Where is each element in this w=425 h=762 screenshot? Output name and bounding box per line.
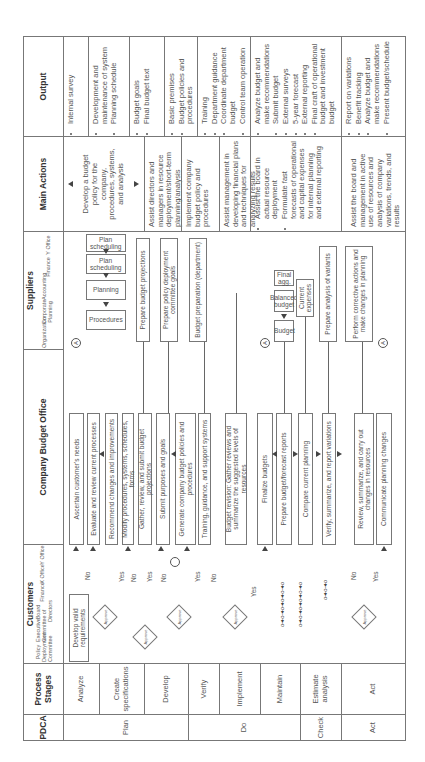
supplier-planning: Planning: [86, 280, 126, 300]
approve-label: Approve: [143, 625, 148, 649]
sup-sub-2: Accounting: [42, 278, 48, 300]
output-maintain: Analyze budget and make recommendations …: [250, 36, 342, 137]
cbo-training-guidance: Training, guidance, and support systems: [198, 413, 211, 545]
supplier-budget-preparation: Budget preparation (department): [189, 238, 207, 342]
output-item: Internal survey: [67, 75, 76, 124]
supplier-prepare-policy-goals: Prepare policy deployment committee goal…: [160, 238, 178, 342]
cbo-communicate-changes: Communicate planning changes: [376, 413, 392, 545]
pdca-check: Check: [300, 714, 342, 741]
no-label: No: [84, 572, 91, 580]
output-act: Report on variations Benefit tracking An…: [341, 36, 406, 137]
arrow-up-icon: [68, 181, 73, 187]
output-create: Development and maintenance of systemPla…: [88, 36, 130, 137]
supplier-budget: Budget: [274, 320, 294, 342]
output-verify: Basic premisesBudget policies and proced…: [164, 36, 198, 137]
header-output: Output: [23, 36, 64, 137]
output-item: Final craft of operational budget and in…: [311, 41, 337, 124]
header-main-actions: Main Actions: [23, 136, 64, 232]
stage-create-specifications: Create specifications: [99, 663, 145, 715]
header-process-stages: Process Stages: [23, 663, 64, 715]
cbo-ascertain-needs: Ascertain customer's needs: [69, 413, 84, 545]
supplier-final-agg: Final agg.: [274, 270, 294, 286]
sup-sub-0: Organization: [42, 324, 48, 348]
supplier-prepare-budget-projections: Prepare budget projections: [136, 238, 150, 342]
output-item: Budget policies and procedures: [178, 41, 195, 124]
supplier-balanced-budget: Balanced budget: [274, 290, 294, 312]
no-label: No: [350, 572, 357, 580]
cbo-review-changes: Review, summarize, and carry out changes…: [354, 413, 374, 545]
sup-sub-1: Corporate Planning: [42, 300, 54, 324]
stage-implement: Implement: [219, 663, 261, 715]
dotted-flow: o-◂-o-◂-o-◂-o-◂-o-◂-o: [296, 582, 303, 627]
stage-act: Act: [341, 663, 406, 715]
main-action-develop: Assist directors and managers in resourc…: [144, 136, 182, 232]
main-action-verify: Implement company budget policy and proc…: [181, 136, 220, 232]
no-label: No: [160, 574, 167, 582]
cbo-verify-variations: Verify, summarize, and report variations: [322, 413, 336, 545]
supplier-current-expenses: Current expenses: [296, 279, 314, 317]
output-item: External reporting: [301, 41, 310, 124]
dotted-flow: o-◂-o-◂-o-◂-o-◂-o-◂-o: [278, 582, 285, 627]
arrow-right-icon: [262, 546, 268, 551]
pdca-do: Do: [188, 714, 301, 741]
approve-label: Approve: [103, 605, 108, 629]
arrow-icon: [171, 451, 176, 457]
connector-a: A: [378, 338, 388, 348]
main-action-text: Develop a budget policy for the company,…: [82, 138, 125, 230]
connector-line: [305, 317, 306, 413]
cust-sub-1: Executive Committee: [36, 622, 48, 642]
output-item: Benefit tracking: [355, 41, 364, 124]
arrow-right-icon: [73, 546, 79, 551]
output-item: External surveys: [282, 41, 291, 124]
output-item: Final budget text: [143, 69, 152, 124]
approve-label: Approve: [362, 605, 367, 629]
pdca-act: Act: [341, 714, 406, 741]
dotted-flow: o-◂-o-◂-o: [321, 580, 328, 600]
yes-label: Yes: [372, 571, 379, 582]
output-item: Training: [201, 41, 210, 124]
stage-analyze: Analyze: [63, 663, 100, 715]
arrow-icon: [316, 451, 321, 457]
yes-label: Yes: [194, 571, 201, 582]
arrow-icon: [293, 451, 298, 457]
arrow-right-icon: [158, 546, 164, 551]
main-action-item: Formulate fast forecasts of operational …: [281, 141, 324, 219]
cbo-generate-policies: Generate company budget policies and pro…: [175, 413, 196, 545]
cbo-budget-revision: Budget revision: Gather reviews and summ…: [225, 413, 247, 545]
cbo-gather-projections: Gather, review, and submit budget projec…: [138, 413, 152, 545]
arrow-icon: [337, 451, 342, 457]
cbo-recommend-changes: Recommend changes and improvements: [105, 413, 118, 545]
output-item: Coordinate department budget: [220, 41, 237, 124]
stage-estimate-analysis: Estimate analysis: [300, 663, 342, 715]
stage-develop: Develop: [144, 663, 189, 715]
process-diagram: PDCA Process Stages Customers Policy Dep…: [0, 0, 425, 762]
cbo-evaluate-processes: Evaluate and review current processes: [87, 413, 100, 545]
sup-sub-3: Finance: [46, 256, 52, 278]
supplier-procedures: Procedures: [86, 310, 126, 330]
connector-line: [204, 342, 205, 413]
arrow-right-icon: [381, 546, 387, 551]
output-item: Development and maintenance of system: [92, 41, 109, 124]
output-item: Present budget/schedule: [383, 41, 392, 124]
header-company-budget-office: Company Budget Office: [23, 349, 64, 545]
arrow-left-icon: [103, 249, 109, 254]
output-item: Submit budget: [272, 41, 281, 124]
connector-line: [236, 293, 237, 413]
no-label: No: [130, 574, 137, 582]
arrow-left-icon: [103, 302, 109, 307]
arrow-icon: [272, 451, 277, 457]
no-label: No: [210, 574, 217, 582]
junction-circle: [170, 557, 180, 567]
connector-a: A: [260, 338, 270, 348]
main-action-analyze-create: Develop a budget policy for the company,…: [63, 136, 145, 232]
main-action-maintain: Assist the board in actual resource depl…: [250, 136, 342, 232]
cbo-finalize-budgets: Finalize budgets: [257, 413, 273, 545]
output-item: Budget goals: [133, 69, 142, 124]
arrow-left-icon: [103, 273, 109, 278]
output-item: Analyze budget and make recommendations: [364, 41, 381, 124]
arrow-right-icon: [184, 546, 190, 551]
output-analyze: Internal survey: [63, 36, 89, 137]
supplier-prepare-analysis: Prepare analysis of variants: [319, 246, 337, 342]
connector-line: [362, 342, 363, 413]
cust-sub-5: Y Office: [40, 545, 46, 565]
